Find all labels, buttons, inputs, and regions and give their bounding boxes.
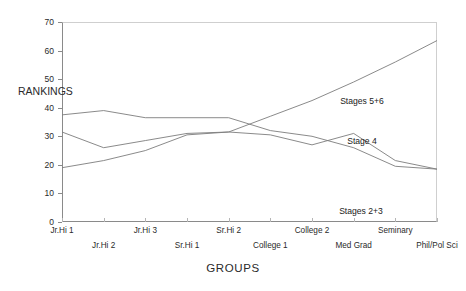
x-axis-title: GROUPS bbox=[0, 262, 466, 274]
x-axis-title-text: GROUPS bbox=[206, 262, 259, 274]
chart-container: RANKINGS 706050403020100 Jr.Hi 1Jr.Hi 2J… bbox=[0, 0, 466, 291]
series-label: Stages 5+6 bbox=[340, 96, 384, 106]
series-line-stage-4 bbox=[62, 132, 437, 169]
series-label: Stages 2+3 bbox=[339, 206, 383, 216]
series-label: Stage 4 bbox=[347, 136, 377, 146]
series-line-stages-2-3 bbox=[62, 111, 437, 170]
series-lines bbox=[0, 0, 466, 291]
